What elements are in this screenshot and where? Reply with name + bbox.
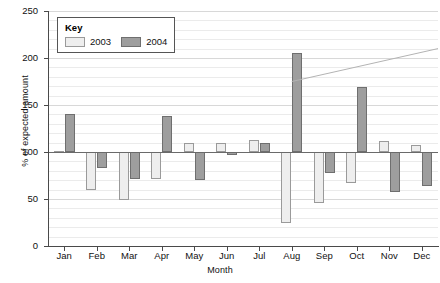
bar-sep-2003 — [314, 152, 324, 203]
baseline-100 — [48, 152, 438, 153]
x-tick-label-oct: Oct — [341, 250, 373, 261]
x-tick-label-nov: Nov — [373, 250, 405, 261]
y-tick-label: 100 — [8, 146, 38, 157]
gridline — [48, 67, 438, 68]
legend-swatch-2003 — [65, 37, 85, 47]
y-axis-title: % of expected amount — [20, 51, 30, 191]
x-tick-label-may: May — [178, 250, 210, 261]
bar-dec-2004 — [422, 152, 432, 186]
bar-jul-2003 — [249, 140, 259, 152]
bar-jan-2004 — [65, 114, 75, 152]
gridline — [48, 237, 438, 238]
x-tick-label-feb: Feb — [81, 250, 113, 261]
bar-nov-2003 — [379, 141, 389, 152]
x-tick-label-jan: Jan — [48, 250, 80, 261]
legend-entry-2003: 2003 — [65, 36, 111, 47]
legend-label-2003: 2003 — [90, 36, 111, 47]
gridline — [48, 199, 438, 200]
bar-nov-2004 — [390, 152, 400, 192]
gridline — [48, 171, 438, 172]
gridline — [48, 124, 438, 125]
bar-apr-2003 — [151, 152, 161, 179]
x-tick-label-jul: Jul — [243, 250, 275, 261]
gridline — [48, 180, 438, 181]
legend-swatch-2004 — [121, 37, 141, 47]
gridline — [48, 77, 438, 78]
x-tick-label-sep: Sep — [308, 250, 340, 261]
x-tick-label-apr: Apr — [146, 250, 178, 261]
gridline — [48, 96, 438, 97]
gridline — [48, 11, 438, 12]
bar-sep-2004 — [325, 152, 335, 173]
bar-jul-2004 — [260, 143, 270, 152]
gridline — [48, 105, 438, 106]
gridline — [48, 227, 438, 228]
y-tick-label: 250 — [8, 5, 38, 16]
gridline — [48, 58, 438, 59]
x-axis-title: Month — [0, 265, 440, 275]
x-tick-label-mar: Mar — [113, 250, 145, 261]
x-tick-label-dec: Dec — [406, 250, 438, 261]
bar-may-2004 — [195, 152, 205, 180]
y-tick-label: 200 — [8, 52, 38, 63]
x-tick-label-aug: Aug — [276, 250, 308, 261]
legend-entry-2004: 2004 — [121, 36, 167, 47]
bar-apr-2004 — [162, 116, 172, 152]
y-tick-label: 150 — [8, 99, 38, 110]
legend-title: Key — [65, 22, 167, 33]
bar-may-2003 — [184, 143, 194, 152]
y-tick-label: 50 — [8, 193, 38, 204]
bar-feb-2003 — [86, 152, 96, 190]
bar-mar-2004 — [130, 152, 140, 179]
gridline — [48, 133, 438, 134]
gridline — [48, 218, 438, 219]
gridline — [48, 208, 438, 209]
gridline — [48, 86, 438, 87]
bar-feb-2004 — [97, 152, 107, 168]
bar-oct-2003 — [346, 152, 356, 183]
x-tick-label-jun: Jun — [211, 250, 243, 261]
left-axis-spine — [48, 11, 49, 247]
legend-label-2004: 2004 — [146, 36, 167, 47]
gridline — [48, 114, 438, 115]
bar-aug-2004 — [292, 53, 302, 152]
bar-aug-2003 — [281, 152, 291, 223]
bar-chart: % of expected amount Month 0501001502002… — [0, 0, 440, 283]
bar-dec-2003 — [411, 145, 421, 152]
bottom-axis-spine — [48, 246, 439, 247]
legend-items: 20032004 — [65, 36, 167, 47]
bar-mar-2003 — [119, 152, 129, 200]
bar-jun-2003 — [216, 143, 226, 152]
gridline — [48, 190, 438, 191]
legend: Key 20032004 — [57, 17, 175, 53]
y-tick-label: 0 — [8, 240, 38, 251]
bar-oct-2004 — [357, 87, 367, 152]
